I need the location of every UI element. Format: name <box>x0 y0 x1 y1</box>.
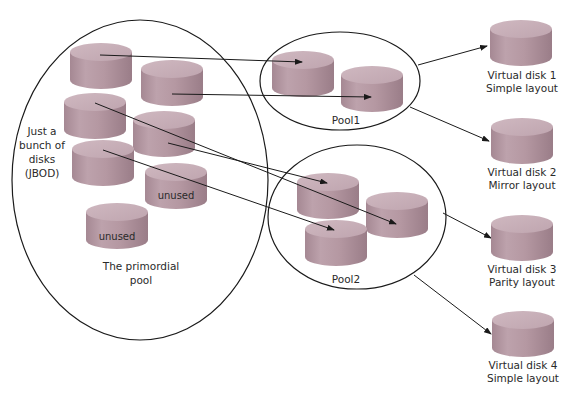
pool2-label: Pool2 <box>332 273 360 285</box>
physical-disk-2 <box>141 60 203 106</box>
virtual-disk-2: Virtual disk 2 Mirror layout <box>488 118 557 191</box>
primordial-pool: unused unused Just a bunch of disks (JBO… <box>12 20 268 340</box>
jbod-label-line2: bunch of <box>19 139 65 151</box>
unused-label-2: unused <box>99 231 136 242</box>
pool1-disk-2 <box>341 66 403 112</box>
storage-pools-diagram: unused unused Just a bunch of disks (JBO… <box>0 0 569 397</box>
primordial-pool-label-line2: pool <box>130 274 152 286</box>
arrow-pool2-to-vdisk3 <box>443 213 491 238</box>
virtual-disk-3-name: Virtual disk 3 <box>488 263 557 275</box>
pool2-disk-2 <box>366 192 428 238</box>
arrow-pool1-to-vdisk1 <box>418 46 487 65</box>
physical-disk-3 <box>64 93 126 139</box>
virtual-disk-4-name: Virtual disk 4 <box>489 359 558 371</box>
jbod-label-line4: (JBOD) <box>25 167 60 179</box>
physical-disk-4 <box>133 111 195 157</box>
virtual-disk-arrows <box>410 46 491 334</box>
primordial-pool-label-line1: The primordial <box>102 260 179 272</box>
pool1: Pool1 <box>260 32 420 130</box>
pool1-label: Pool1 <box>332 114 360 126</box>
pool2-disk-1 <box>297 173 359 219</box>
virtual-disk-4: Virtual disk 4 Simple layout <box>487 311 559 384</box>
arrow-pool1-to-vdisk2 <box>410 107 489 141</box>
jbod-label-line3: disks <box>29 153 56 165</box>
virtual-disk-1-layout: Simple layout <box>486 82 558 94</box>
virtual-disk-2-name: Virtual disk 2 <box>488 166 557 178</box>
primordial-pool-outline <box>12 20 268 340</box>
virtual-disk-1-name: Virtual disk 1 <box>488 69 557 81</box>
unused-disk-1 <box>145 163 207 209</box>
virtual-disk-3: Virtual disk 3 Parity layout <box>488 215 557 288</box>
virtual-disk-1: Virtual disk 1 Simple layout <box>486 20 558 94</box>
virtual-disk-4-layout: Simple layout <box>487 372 559 384</box>
unused-disk-2 <box>86 203 148 249</box>
jbod-label-line1: Just a <box>26 125 56 137</box>
physical-disk-5 <box>72 140 134 186</box>
physical-disk-1 <box>70 43 132 89</box>
virtual-disk-2-layout: Mirror layout <box>488 179 555 191</box>
pool2: Pool2 <box>268 145 446 289</box>
virtual-disk-3-layout: Parity layout <box>489 276 555 288</box>
arrow-pool2-to-vdisk4 <box>414 275 491 334</box>
pool1-disk-1 <box>272 51 334 97</box>
pool2-disk-3 <box>305 220 367 266</box>
unused-label-1: unused <box>158 190 195 201</box>
